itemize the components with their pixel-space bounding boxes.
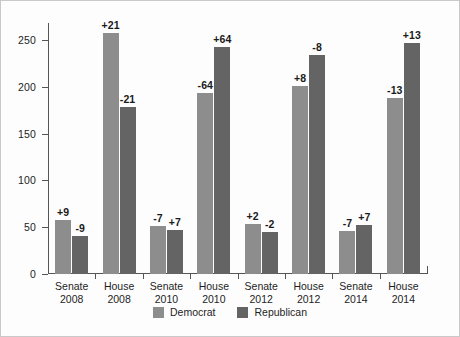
- bar-value-label: -2: [265, 218, 275, 230]
- x-axis-group-label: Senate2008: [55, 280, 88, 305]
- y-axis-tick-label: 250: [18, 34, 36, 46]
- bar-democrat-senate-2008[interactable]: +9: [55, 220, 71, 274]
- x-axis-group-label: House2010: [199, 280, 229, 305]
- x-axis-group-label-line: 2010: [199, 293, 229, 306]
- bar-republican-house-2010[interactable]: +64: [214, 47, 230, 274]
- x-axis-group-label-line: House: [199, 280, 229, 293]
- bar-value-label: -7: [153, 212, 163, 224]
- bar-value-label: -21: [120, 93, 135, 105]
- x-axis-tick: [238, 273, 239, 279]
- x-axis-group-label: Senate2012: [245, 280, 278, 305]
- y-axis-tick: 0: [42, 274, 48, 275]
- bar-value-label: +7: [169, 216, 181, 228]
- y-axis-tick: 50: [42, 227, 48, 228]
- x-axis-group-label-line: House: [104, 280, 134, 293]
- y-axis-tick-label: 100: [18, 174, 36, 186]
- bar-republican-house-2014[interactable]: +13: [404, 43, 420, 274]
- bar-democrat-senate-2010[interactable]: -7: [150, 226, 166, 274]
- bar-value-label: +2: [247, 210, 259, 222]
- x-axis-tick: [332, 273, 333, 279]
- y-axis-tick-label: 50: [24, 221, 36, 233]
- bar-republican-senate-2010[interactable]: +7: [167, 230, 183, 274]
- legend-swatch-republican: [237, 307, 248, 318]
- y-axis-tick-label: 150: [18, 128, 36, 140]
- bar-republican-house-2012[interactable]: -8: [309, 55, 325, 274]
- x-axis-tick: [380, 273, 381, 279]
- bar-republican-senate-2014[interactable]: +7: [356, 225, 372, 274]
- x-axis-group-label-line: 2008: [104, 293, 134, 306]
- x-axis-end-cap: [427, 266, 428, 274]
- x-axis-group-label-line: 2012: [293, 293, 323, 306]
- x-axis-group-label-line: 2014: [339, 293, 372, 306]
- x-axis-group-label: House2008: [104, 280, 134, 305]
- bar-value-label: +13: [403, 29, 421, 41]
- x-axis-group-label-line: 2008: [55, 293, 88, 306]
- bar-value-label: +21: [102, 19, 120, 31]
- bar-democrat-house-2010[interactable]: -64: [197, 93, 213, 274]
- bar-value-label: +64: [213, 33, 231, 45]
- legend-item-democrat[interactable]: Democrat: [153, 306, 216, 318]
- y-axis-tick: 150: [42, 134, 48, 135]
- bar-republican-senate-2012[interactable]: -2: [262, 232, 278, 274]
- bar-value-label: +8: [294, 72, 306, 84]
- x-axis-group-label-line: House: [388, 280, 418, 293]
- y-axis-tick-label: 200: [18, 81, 36, 93]
- x-axis-tick: [95, 273, 96, 279]
- y-axis-tick-label: 0: [30, 268, 36, 280]
- x-axis-group-label-line: 2014: [388, 293, 418, 306]
- bar-republican-house-2008[interactable]: -21: [120, 107, 136, 274]
- x-axis-group-label: House2012: [293, 280, 323, 305]
- y-axis-tick: 250: [42, 40, 48, 41]
- bar-value-label: -64: [198, 79, 213, 91]
- y-axis-tick: 100: [42, 180, 48, 181]
- bar-democrat-house-2012[interactable]: +8: [292, 86, 308, 274]
- bar-value-label: -8: [312, 41, 322, 53]
- chart-legend: DemocratRepublican: [1, 306, 459, 318]
- bar-value-label: -13: [387, 84, 402, 96]
- x-axis-group-label-line: Senate: [55, 280, 88, 293]
- plot-area: 050100150200250+9-9+21-21-7+7-64+64+2-2+…: [48, 23, 427, 274]
- bar-democrat-senate-2012[interactable]: +2: [245, 224, 261, 274]
- x-axis-group-label-line: Senate: [339, 280, 372, 293]
- legend-label: Republican: [254, 306, 307, 318]
- x-axis-tick: [143, 273, 144, 279]
- bar-value-label: -7: [343, 217, 353, 229]
- bar-democrat-house-2014[interactable]: -13: [387, 98, 403, 274]
- x-axis-tick: [285, 273, 286, 279]
- x-axis-group-label-line: Senate: [245, 280, 278, 293]
- x-axis-group-label: Senate2010: [150, 280, 183, 305]
- x-axis-tick: [190, 273, 191, 279]
- legend-item-republican[interactable]: Republican: [237, 306, 307, 318]
- chart-figure: 050100150200250+9-9+21-21-7+7-64+64+2-2+…: [0, 0, 460, 337]
- legend-label: Democrat: [170, 306, 216, 318]
- legend-swatch-democrat: [153, 307, 164, 318]
- x-axis-group-label-line: Senate: [150, 280, 183, 293]
- y-axis-tick: 200: [42, 87, 48, 88]
- bar-value-label: +7: [358, 211, 370, 223]
- x-axis-group-label-line: 2010: [150, 293, 183, 306]
- x-axis-group-label: Senate2014: [339, 280, 372, 305]
- x-axis-group-label: House2014: [388, 280, 418, 305]
- x-axis-group-label-line: 2012: [245, 293, 278, 306]
- bar-value-label: -9: [75, 222, 85, 234]
- bar-democrat-house-2008[interactable]: +21: [103, 33, 119, 274]
- bar-democrat-senate-2014[interactable]: -7: [339, 231, 355, 274]
- bar-republican-senate-2008[interactable]: -9: [72, 236, 88, 274]
- x-axis-group-label-line: House: [293, 280, 323, 293]
- bar-value-label: +9: [57, 206, 69, 218]
